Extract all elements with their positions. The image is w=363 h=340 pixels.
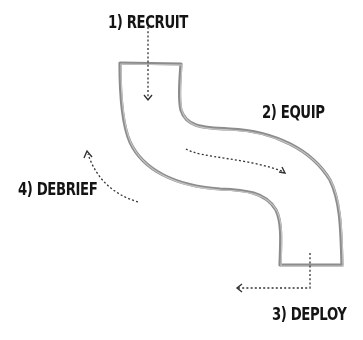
step-label-debrief: 4) DEBRIEF [18, 181, 97, 198]
step-label-equip: 2) EQUIP [262, 104, 325, 121]
process-diagram: 1) RECRUIT 2) EQUIP 3) DEPLOY 4) DEBRIEF [0, 0, 363, 340]
step-label-deploy: 3) DEPLOY [272, 306, 347, 323]
pipe-shape [120, 63, 343, 266]
step-label-recruit: 1) RECRUIT [108, 14, 188, 31]
pipe-diagram-svg [0, 0, 363, 340]
